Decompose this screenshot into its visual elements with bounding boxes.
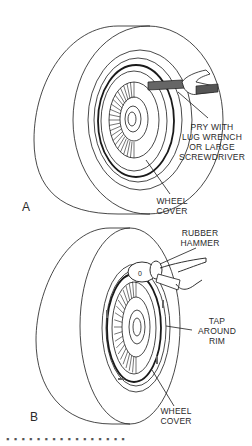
rubber-hammer-icon: 0: [128, 258, 206, 290]
panel-b-tap-rim: 0 RUBBER HAMMER TAP AROUND RIM WHEEL COV…: [0, 220, 252, 426]
panel-letter-a: A: [22, 200, 30, 214]
leader-line-tool: [178, 92, 208, 118]
label-tap-around-rim: TAP AROUND RIM: [192, 316, 242, 346]
label-rubber-hammer: RUBBER HAMMER: [170, 228, 230, 248]
panel-a-pry-wheel-cover: PRY WITH LUG WRENCH OR LARGE SCREWDRIVER…: [0, 0, 252, 222]
pry-bar-icon: [148, 70, 218, 95]
caption-clipped: ▪ ▪ ▪ ▪ ▪ ▪ ▪ ▪ ▪ ▪ ▪ ▪ ▪ ▪ ▪ ▪: [0, 437, 252, 446]
tire-pry-illustration: [0, 0, 252, 222]
leader-line-cover-b: [152, 370, 174, 406]
panel-letter-b: B: [30, 410, 38, 424]
label-wheel-cover-b: WHEEL COVER: [156, 406, 196, 426]
label-pry-tool: PRY WITH LUG WRENCH OR LARGE SCREWDRIVER: [172, 122, 252, 162]
svg-text:0: 0: [138, 270, 142, 277]
label-wheel-cover-a: WHEEL COVER: [152, 196, 192, 216]
